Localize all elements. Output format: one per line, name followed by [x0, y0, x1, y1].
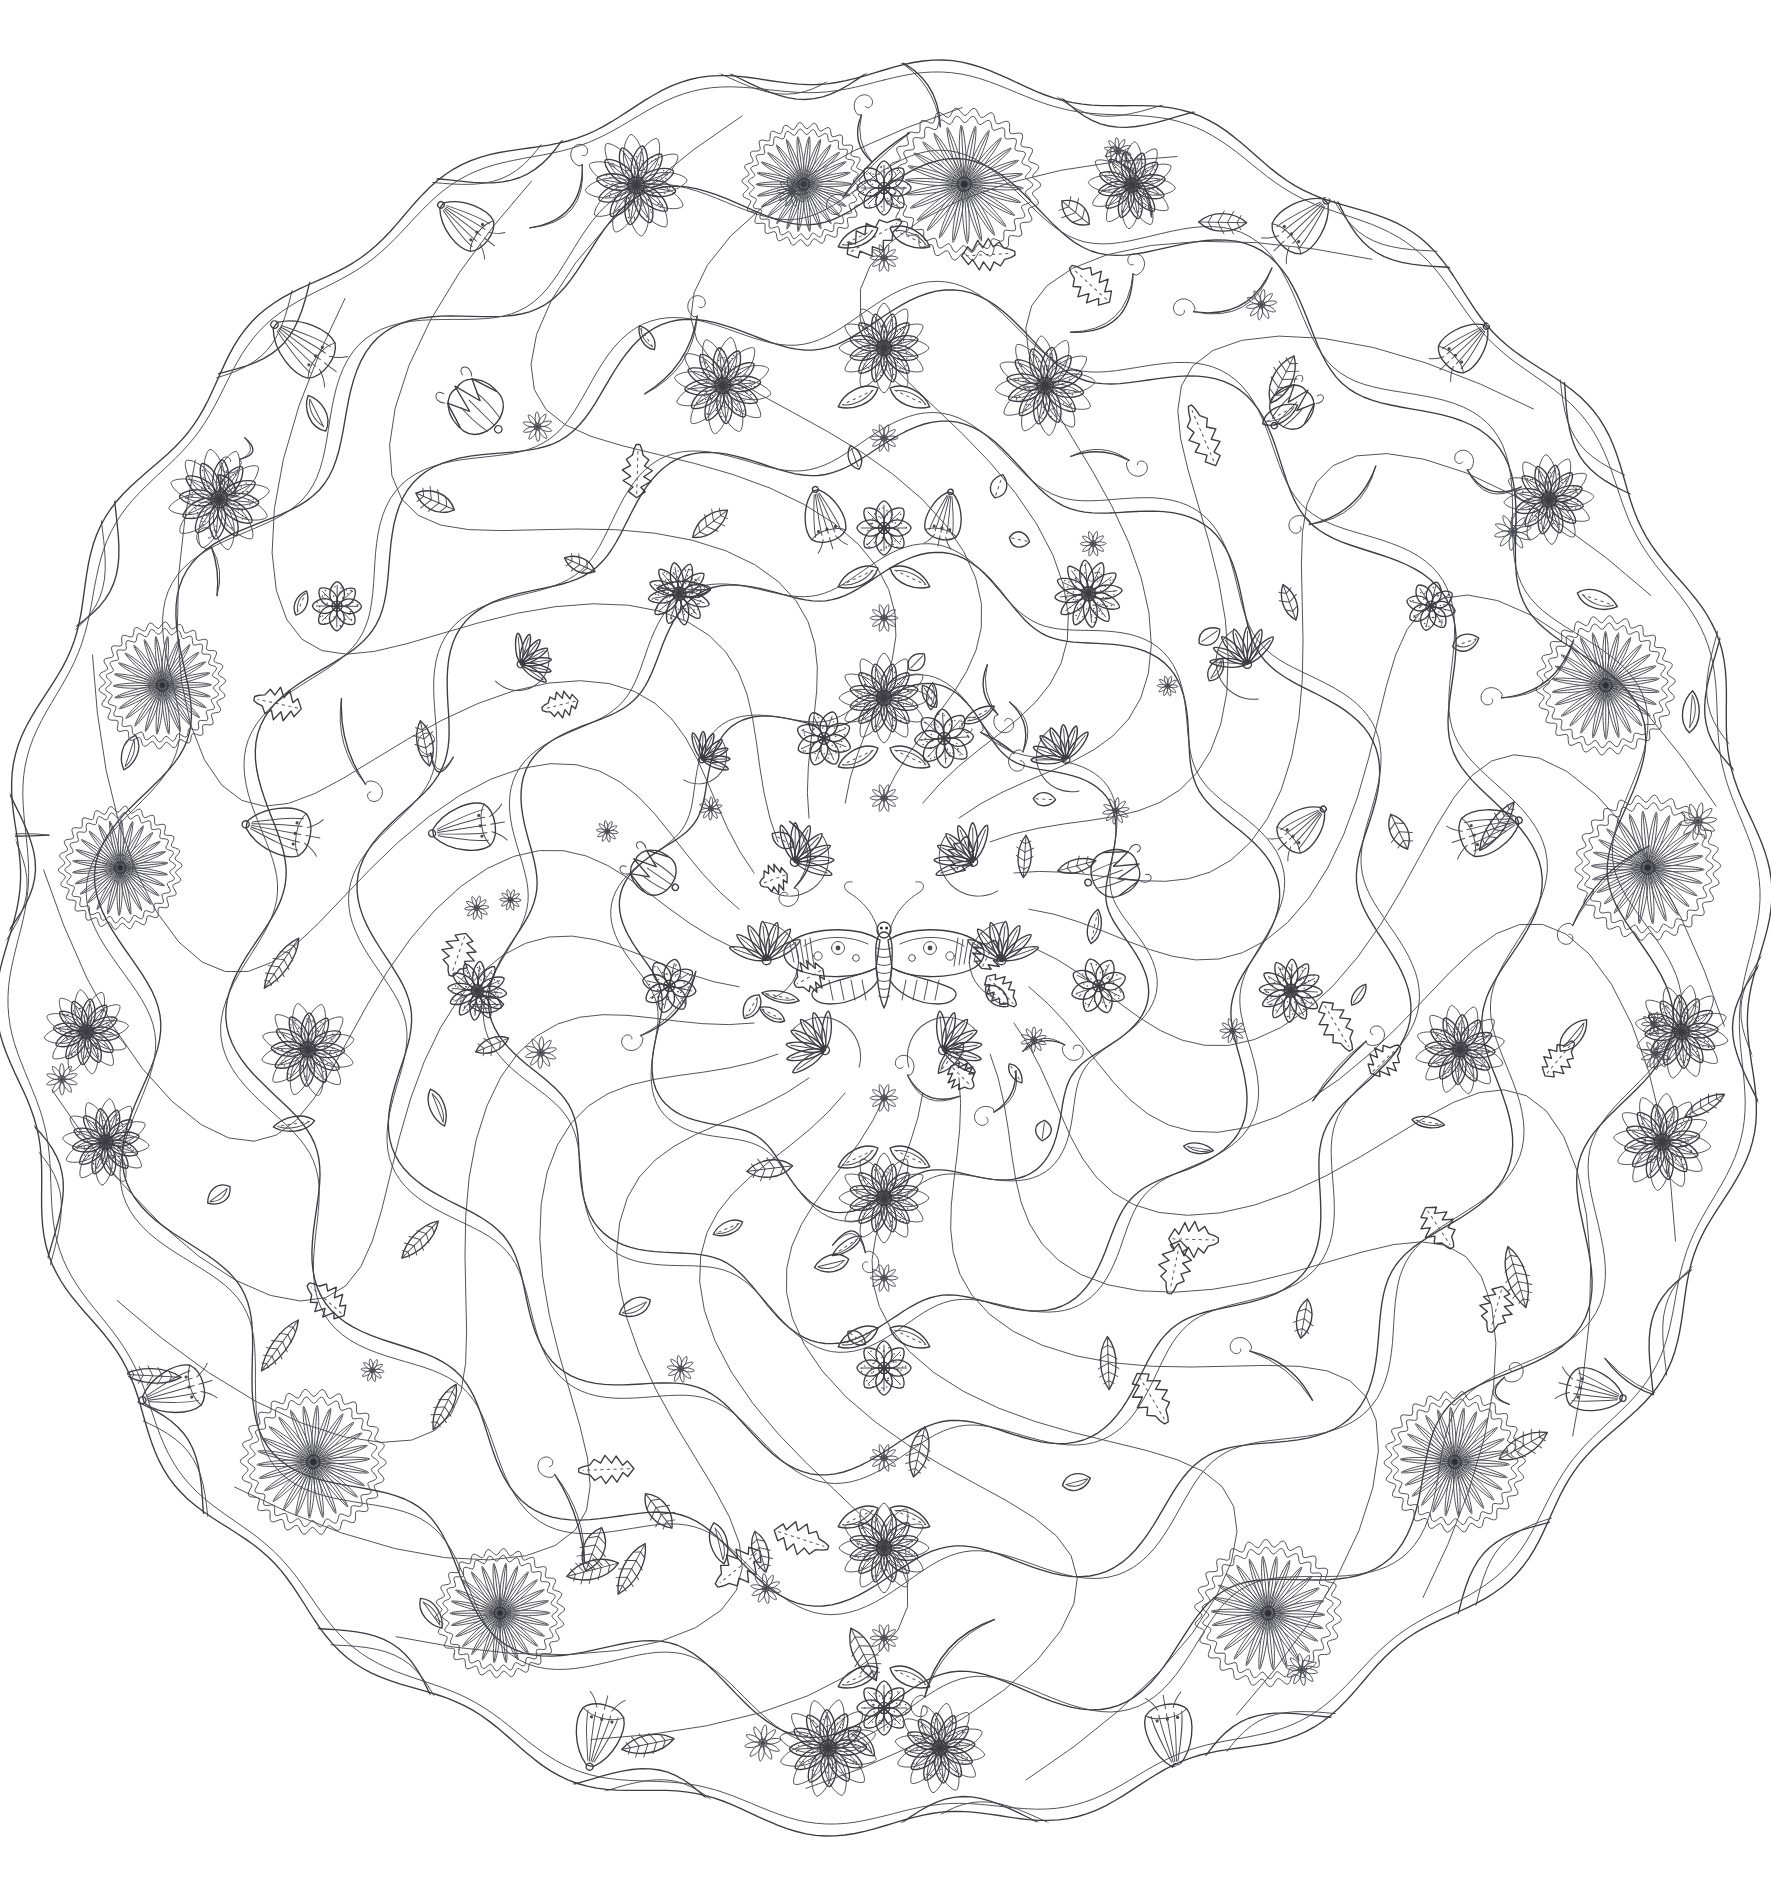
artwork-canvas [0, 0, 1771, 1893]
floral-mandala-illustration [0, 0, 1771, 1893]
